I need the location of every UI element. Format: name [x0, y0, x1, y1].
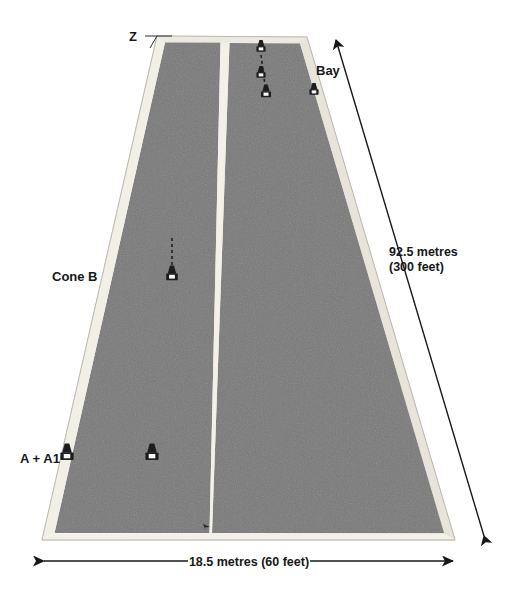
- lane-left-asphalt: [55, 43, 221, 534]
- label-cone-b: Cone B: [52, 269, 98, 284]
- road-surface-group: [42, 36, 455, 540]
- course-diagram: Z Bay Cone B A + A1 92.5 metres (300 fee…: [0, 0, 520, 601]
- length-dimension-metric: 92.5 metres: [389, 245, 458, 259]
- label-z: Z: [129, 29, 137, 44]
- cone-b-annotation: Cone B: [52, 269, 98, 284]
- a-a1-annotation: A + A1: [20, 451, 60, 466]
- width-dimension-text: 18.5 metres (60 feet): [189, 555, 309, 569]
- bottom-edge-band: [42, 533, 455, 539]
- diagram-canvas: Z Bay Cone B A + A1 92.5 metres (300 fee…: [0, 0, 520, 601]
- width-dimension: 18.5 metres (60 feet): [44, 555, 453, 569]
- bay-annotation: Bay: [316, 63, 341, 78]
- length-dimension-imperial: (300 feet): [389, 260, 444, 274]
- label-a-a1: A + A1: [20, 451, 60, 466]
- label-bay: Bay: [316, 63, 341, 78]
